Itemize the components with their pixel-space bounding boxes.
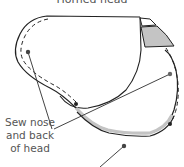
- label-line-2: and back: [2, 129, 58, 142]
- horn-piece: [140, 18, 174, 47]
- label-line-1: Sew nose: [2, 116, 58, 129]
- sew-instruction-label: Sew nose and back of head: [2, 116, 58, 155]
- label-line-3: of head: [2, 142, 58, 155]
